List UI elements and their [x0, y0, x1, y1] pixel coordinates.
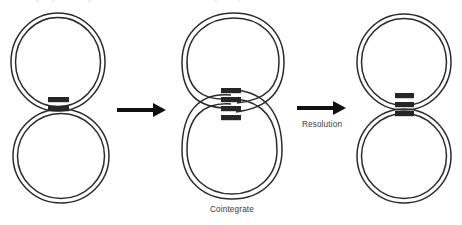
resolved-block-3: [395, 111, 414, 116]
crossover-block-1: [221, 88, 241, 93]
crossover-block-4: [221, 115, 241, 120]
diagram-canvas: Cointegrate Resolution: [0, 0, 462, 225]
resolved-block-2: [395, 102, 414, 107]
transposon-block-lower: [48, 106, 69, 111]
resolved-block-1: [395, 93, 414, 98]
resolved-blocks: [395, 93, 414, 116]
transposon-block-upper: [48, 97, 69, 102]
canvas-background: [0, 0, 462, 225]
plasmid-recombination-diagram: Cointegrate Resolution: [0, 0, 462, 225]
resolution-label: Resolution: [302, 120, 342, 129]
crossover-block-2: [221, 97, 241, 102]
cointegrate-caption: Cointegrate: [210, 205, 254, 214]
crossover-block-3: [221, 106, 241, 111]
